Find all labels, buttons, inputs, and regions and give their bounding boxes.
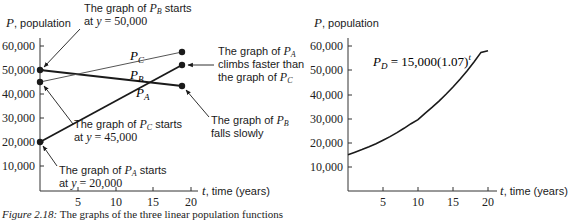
svg-text:20: 20 [185, 195, 197, 209]
svg-text:10: 10 [110, 195, 122, 209]
svg-text:20,000: 20,000 [310, 136, 343, 150]
right-y-ticks [348, 46, 352, 167]
label-p-b: PB [129, 67, 144, 84]
annotation-p-b-start: The graph of PB starts at y = 50,000 [44, 1, 192, 67]
right-x-ticks [383, 187, 488, 191]
figure-number: Figure 2.18: [2, 208, 57, 220]
svg-text:30,000: 30,000 [310, 112, 343, 126]
svg-text:60,000: 60,000 [310, 39, 343, 53]
left-y-ticks [40, 46, 44, 166]
label-p-a: PA [135, 85, 150, 102]
point-p-b-start [37, 67, 43, 73]
svg-text:The graph of PA: The graph of PA [218, 44, 296, 59]
left-chart: P, population 60,000 50,000 40,000 30,00… [2, 1, 304, 209]
caption-text: The graphs of the three linear populatio… [57, 208, 283, 220]
annotation-p-a-start: The graph of PA starts at y = 20,000 [43, 146, 167, 190]
figure-canvas: P, population 60,000 50,000 40,000 30,00… [0, 0, 568, 220]
svg-text:10,000: 10,000 [310, 160, 343, 174]
svg-text:at y = 20,000: at y = 20,000 [59, 176, 122, 190]
annotation-p-c-start: The graph of PC starts at y = 45,000 [44, 86, 183, 144]
svg-text:at y = 45,000: at y = 45,000 [74, 130, 137, 144]
point-p-b-end [179, 83, 185, 89]
svg-text:30,000: 30,000 [2, 111, 35, 125]
svg-text:15: 15 [447, 195, 459, 209]
right-x-axis-label: t, time (years) [500, 183, 568, 198]
svg-text:10,000: 10,000 [2, 159, 35, 173]
svg-text:the graph of PC: the graph of PC [218, 70, 293, 85]
svg-text:climbs faster than: climbs faster than [218, 58, 304, 70]
figure-caption: Figure 2.18: The graphs of the three lin… [2, 208, 283, 220]
svg-text:15: 15 [147, 195, 159, 209]
point-p-c-start [37, 79, 43, 85]
svg-text:falls slowly: falls slowly [211, 127, 264, 139]
label-p-c: PC [129, 48, 145, 65]
annotation-p-b-falls: The graph of PB falls slowly [186, 90, 289, 139]
right-x-tick-labels: 5 10 15 20 [380, 195, 494, 209]
left-x-tick-labels: 5 10 15 20 [75, 195, 197, 209]
right-y-tick-labels: 60,000 50,000 40,000 30,000 20,000 10,00… [310, 39, 343, 174]
svg-text:60,000: 60,000 [2, 39, 35, 53]
svg-text:5: 5 [75, 195, 81, 209]
left-x-axis-label: t, time (years) [202, 183, 270, 198]
svg-text:20: 20 [482, 195, 494, 209]
point-p-a-start [37, 139, 43, 145]
formula-p-d: PD = 15,000(1.07)t [372, 52, 471, 71]
right-y-axis-label: P, population [313, 15, 379, 30]
svg-text:5: 5 [380, 195, 386, 209]
svg-text:50,000: 50,000 [310, 63, 343, 77]
svg-text:40,000: 40,000 [2, 87, 35, 101]
point-p-a-end [179, 62, 185, 68]
right-chart: P, population 60,000 50,000 40,000 30,00… [310, 15, 568, 209]
annotation-p-a-climbs: The graph of PA climbs faster than the g… [188, 44, 304, 85]
point-p-c-end [179, 49, 185, 55]
left-y-axis-label: P, population [5, 15, 71, 30]
svg-text:at y = 50,000: at y = 50,000 [84, 14, 147, 28]
svg-text:10: 10 [412, 195, 424, 209]
svg-text:50,000: 50,000 [2, 63, 35, 77]
svg-text:40,000: 40,000 [310, 88, 343, 102]
left-y-tick-labels: 60,000 50,000 40,000 30,000 20,000 10,00… [2, 39, 35, 173]
svg-text:The graph of PB: The graph of PB [211, 113, 289, 128]
svg-text:20,000: 20,000 [2, 135, 35, 149]
